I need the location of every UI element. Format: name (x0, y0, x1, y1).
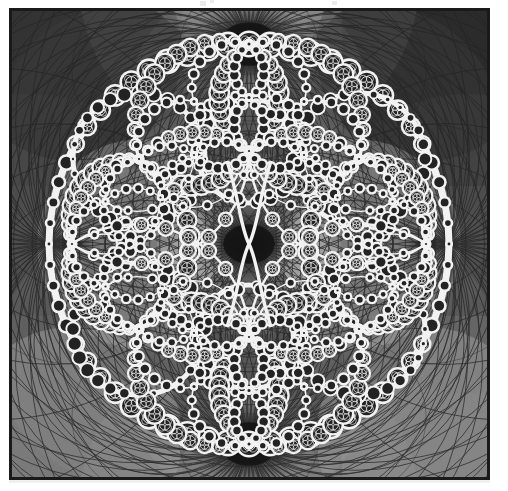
gasket-wnw-chain-2-bead-4 (160, 253, 172, 265)
gasket-wsw-b-chain-0-bead-1 (181, 337, 186, 342)
lobe-bottom-left-bead-11 (81, 364, 93, 376)
gasket-w-c-chain-0-bead-1 (101, 275, 106, 280)
lobe-top-left-bead-14 (72, 158, 74, 160)
gasket-wsw-a-chain-2-bead-4 (241, 311, 246, 316)
gasket-e-b-chain-1-bead-6 (344, 232, 349, 237)
gasket-ne-a-chain-1-bead-6 (252, 102, 257, 107)
gasket-wnw-a-chain-0-bead-3 (212, 140, 218, 146)
gasket-wnw-b-chain-2-bead-5 (193, 154, 195, 156)
gasket-nw-a-chain-0-bead-4 (196, 57, 204, 65)
gasket-ene-b-chain-2-bead-3 (321, 195, 327, 201)
gasket-ene-c-chain-0-bead-1 (346, 189, 351, 194)
gasket-wsw-c-chain-1-bead-4 (70, 254, 75, 259)
gasket-ne-b-chain-0-bead-6 (359, 143, 364, 148)
gasket-wsw-c-chain-2-bead-1 (92, 233, 97, 238)
gasket-ese-b-chain-1-bead-4 (390, 296, 395, 301)
gasket-ene-b-chain-2-bead-2 (343, 206, 349, 212)
lobe-top-left-bead-20 (118, 89, 130, 101)
gasket-w-c-chain-1-bead-1 (148, 250, 153, 255)
ring-bead-43 (49, 282, 57, 290)
gasket-ne-c-chain-2-bead-5 (233, 107, 240, 114)
gasket-se-a-chain-1-bead-5 (258, 374, 265, 381)
gasket-ese-b-chain-2-bead-1 (368, 275, 373, 280)
gasket-sw-b-chain-1-bead-6 (186, 323, 191, 328)
gasket-e-b-chain-1-bead-1 (344, 165, 349, 170)
gasket-nw-a-chain-0-bead-6 (189, 85, 194, 90)
lobe-bottom-left-bead-14 (67, 323, 79, 335)
gasket-ese-c-chain-0-bead-2 (357, 297, 363, 303)
gasket-wnw-a-chain-1-bead-3 (162, 171, 168, 177)
gasket-sw-b-chain-0-bead-2 (163, 382, 170, 389)
gasket-ene-b-chain-2-bead-1 (368, 208, 373, 213)
gasket-ese-a-chain-1-bead-3 (330, 311, 336, 317)
gasket-ene-c-chain-0-bead-4 (381, 191, 386, 196)
fractal-figure-canvas (12, 11, 487, 477)
gasket-ne-c-chain-1-bead-1 (295, 159, 300, 164)
gasket-ne-a-chain-2-bead-6 (239, 47, 244, 52)
gasket-ne-b-chain-1-bead-5 (313, 165, 320, 172)
gasket-se-b-chain-1-bead-6 (307, 323, 312, 328)
gasket-ese-b-chain-1-bead-1 (368, 323, 373, 328)
lobe-bottom-right-bead-1 (422, 342, 425, 345)
gasket-wsw-c-chain-1-bead-2 (81, 274, 87, 280)
gasket-nw-c-chain-1-bead-2 (205, 163, 212, 170)
gasket-ene-a-chain-2-bead-1 (313, 204, 318, 209)
gasket-wsw-a-chain-0-bead-4 (201, 339, 206, 344)
gasket-ese-chain-2-bead-5 (303, 231, 316, 244)
gasket-sw-b-chain-0-bead-6 (134, 340, 139, 345)
gasket-wnw-c-chain-1-bead-0 (104, 200, 106, 202)
gasket-ese-b-chain-2-bead-5 (303, 332, 305, 334)
gasket-se-a-chain-0-bead-1 (260, 443, 265, 448)
gasket-ne-c-chain-0-bead-2 (273, 95, 280, 102)
gasket-ne-b-chain-1-bead-6 (307, 160, 312, 165)
gasket-wnw-b-chain-0-bead-4 (146, 149, 151, 154)
gasket-ne-a-chain-0-bead-6 (304, 85, 309, 90)
lobe-top-left-bead-18 (93, 102, 103, 112)
gasket-wsw-c-chain-2-bead-2 (116, 233, 122, 239)
gasket-sw-c-chain-1-bead-5 (232, 320, 239, 327)
gasket-se-c-chain-2-bead-7 (248, 389, 251, 392)
gasket-ese-c-chain-2-bead-0 (425, 243, 427, 245)
lobe-bottom-left-bead-4 (178, 378, 183, 383)
gasket-ene-c-chain-1-bead-0 (391, 200, 393, 202)
gasket-se-a-chain-2-bead-1 (239, 394, 244, 399)
gasket-se-c-chain-1-bead-2 (286, 318, 293, 325)
gasket-ne-chain-0-bead-9 (351, 93, 366, 108)
gasket-ene-a-chain-1-bead-2 (322, 162, 328, 168)
gasket-wnw-c-chain-0-bead-4 (113, 191, 118, 196)
gasket-ne-b-chain-0-bead-1 (315, 97, 320, 102)
gasket-nw-b-chain-1-bead-5 (177, 165, 184, 172)
gasket-nw-a-chain-0-bead-5 (190, 70, 197, 77)
gasket-ene-a-chain-0-bead-4 (292, 145, 297, 150)
gasket-ene-a-chain-2-bead-4 (252, 172, 257, 177)
gasket-wnw-a-chain-2-bead-4 (241, 172, 246, 177)
lobe-top-right-bead-9 (329, 217, 333, 221)
gasket-wnw-c-chain-2-bead-1 (92, 251, 97, 256)
gasket-wnw-b-chain-2-bead-1 (126, 208, 131, 213)
gasket-wsw-c-chain-0-bead-3 (123, 296, 129, 302)
gasket-ese-chain-2-bead-2 (376, 221, 385, 230)
gasket-ne-a-chain-1-bead-5 (258, 107, 265, 114)
gasket-nw-a-chain-2-bead-5 (257, 54, 264, 61)
gasket-w-b-chain-1-bead-6 (148, 232, 153, 237)
gasket-wnw-b-chain-2-bead-3 (171, 195, 177, 201)
gasket-ne-c-chain-2-bead-6 (239, 101, 244, 106)
gasket-se-b-chain-0-bead-2 (328, 382, 335, 389)
gasket-ene-chain-2-bead-4 (326, 253, 338, 265)
scan-artifact-a (200, 1, 206, 6)
gasket-ene-chain-2-bead-2 (376, 257, 385, 266)
lobe-bottom-left-bead-9 (105, 383, 115, 393)
gasket-ene-a-chain-1-bead-3 (330, 171, 336, 177)
gasket-ene-a-chain-2-bead-2 (288, 202, 294, 208)
gasket-ene-b-chain-0-bead-4 (347, 149, 352, 154)
gasket-ene-b-chain-1-bead-4 (390, 187, 395, 192)
gasket-wsw-a-chain-2-bead-1 (181, 279, 186, 284)
lobe-top-right-bead-27 (419, 140, 428, 149)
lobe-top-right-bead-23 (386, 98, 390, 102)
gasket-wsw-c-chain-2-bead-4 (153, 265, 158, 270)
gasket-wnw-b-chain-1-bead-3 (107, 175, 113, 181)
gasket-se-c-chain-0-bead-1 (260, 389, 265, 394)
gasket-ese-a-chain-0-bead-2 (268, 343, 274, 349)
gasket-sw-b-chain-0-bead-4 (141, 365, 149, 373)
gasket-nw-a-chain-0-bead-2 (218, 41, 225, 48)
